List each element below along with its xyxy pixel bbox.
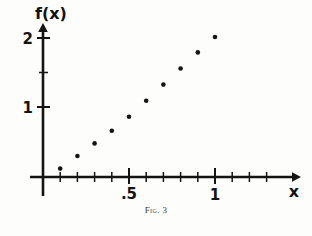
y-axis-title: f(x) [35,4,67,23]
y-tick-label-1: 1 [23,99,33,117]
data-point [196,50,201,55]
data-point [110,129,115,134]
x-axis-arrowhead [292,172,301,182]
scatter-plot: 2 1 .5 1 f(x) x [0,0,312,236]
data-point [127,115,132,120]
data-point [58,166,63,171]
x-axis-title: x [289,182,300,201]
data-point [161,82,166,87]
data-point [75,154,80,159]
y-axis [38,23,48,196]
x-tick-label-half: .5 [121,185,137,203]
data-point [178,66,183,71]
data-points [58,35,217,171]
data-point [213,35,218,40]
x-axis [30,172,301,182]
data-point [92,141,97,146]
figure-container: 2 1 .5 1 f(x) x Fig. 3 [0,0,312,236]
y-tick-label-2: 2 [23,30,33,48]
data-point [144,98,149,103]
y-axis-arrowhead [38,23,48,32]
figure-caption: Fig. 3 [0,205,312,215]
x-tick-label-one: 1 [210,186,220,204]
